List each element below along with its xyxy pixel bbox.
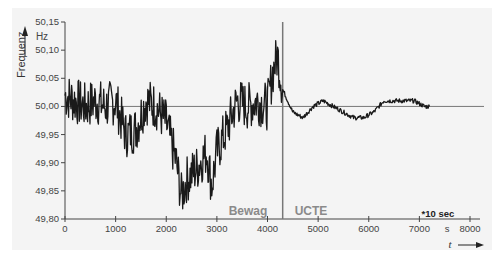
y-tick-label: 50,00: [35, 100, 59, 111]
x-tick-label: 0: [62, 223, 67, 234]
x-axis-title: t: [448, 238, 452, 250]
x-unit: s: [445, 223, 450, 234]
y-tick-label: 50,15: [35, 16, 59, 27]
x-tick-label: 1000: [105, 223, 126, 234]
y-tick-label: 49,80: [35, 213, 59, 224]
x-tick-label: 6000: [358, 223, 379, 234]
y-unit: Hz: [36, 31, 48, 42]
x-tick-label: 5000: [308, 223, 329, 234]
region-label-ucte: UCTE: [295, 204, 328, 218]
x-tick-label: 2000: [156, 223, 177, 234]
x-tick-label: 3000: [206, 223, 227, 234]
x-axis: 010002000300040005000600070008000: [62, 216, 480, 234]
y-tick-label: 50,05: [35, 72, 59, 83]
y-tick-label: 50,10: [35, 44, 59, 55]
frequency-series-line: [65, 41, 430, 209]
x-tick-label: 4000: [257, 223, 278, 234]
y-tick-label: 49,85: [35, 185, 59, 196]
x-tick-label: 7000: [409, 223, 430, 234]
y-tick-label: 49,95: [35, 129, 59, 140]
region-label-bewag: Bewag: [229, 204, 268, 218]
x-note: *10 sec: [422, 208, 455, 219]
y-tick-label: 49,90: [35, 157, 59, 168]
frequency-chart: 49,8049,8549,9049,9550,0050,0550,1050,15…: [0, 0, 499, 262]
x-axis-arrow-icon: [458, 242, 484, 248]
y-axis: 49,8049,8549,9049,9550,0050,0550,1050,15: [35, 16, 65, 224]
x-tick-label: 8000: [459, 223, 480, 234]
